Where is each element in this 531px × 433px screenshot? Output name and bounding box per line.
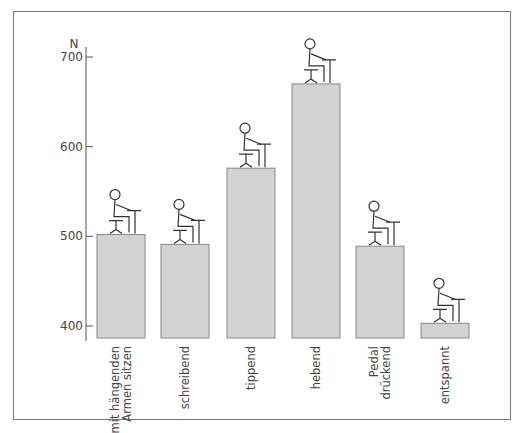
bar-chart: N400500600700mit hängendenArmen sitzensc… xyxy=(0,0,531,433)
bar-3 xyxy=(292,84,340,338)
bar-2 xyxy=(227,168,275,338)
bar-4 xyxy=(356,246,404,338)
y-tick-label-500: 500 xyxy=(60,229,83,243)
bar-5 xyxy=(421,323,469,338)
y-tick-label-400: 400 xyxy=(60,319,83,333)
seated-figure-icon xyxy=(173,199,205,243)
category-label-3: hebend xyxy=(309,346,323,389)
category-label-0: Armen sitzen xyxy=(120,346,134,422)
y-axis-unit-label: N xyxy=(70,37,79,51)
category-label-2: tippend xyxy=(244,346,258,390)
category-label-4: drückend xyxy=(379,346,393,400)
seated-figure-icon xyxy=(109,190,141,234)
category-label-5: entspannt xyxy=(438,346,452,405)
seated-figure-icon xyxy=(304,39,336,83)
seated-figure-icon xyxy=(239,123,271,167)
y-tick-label-700: 700 xyxy=(60,50,83,64)
category-label-1: schreibend xyxy=(178,346,192,409)
seated-figure-icon xyxy=(368,201,400,245)
seated-figure-icon xyxy=(433,278,465,322)
y-tick-label-600: 600 xyxy=(60,140,83,154)
bar-1 xyxy=(161,244,209,338)
bar-0 xyxy=(97,235,145,338)
